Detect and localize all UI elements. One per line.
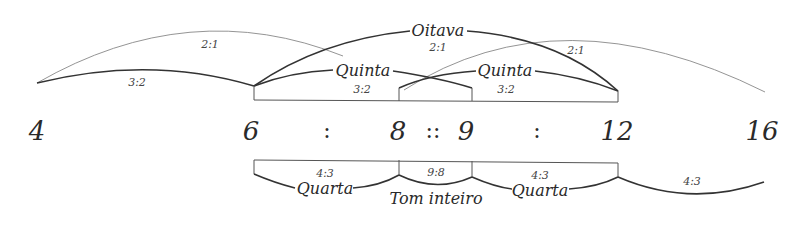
harmonic-ratio-diagram: Oitava 2:1 2:1 3:2 Quinta 3:2 Quinta 3:2… [0, 0, 800, 225]
number-9: 9 [458, 116, 475, 146]
arc-quarta-6-8-left [254, 174, 295, 188]
ratio-quinta-6-9: 3:2 [353, 83, 371, 96]
ratio-tom-inteiro: 9:8 [427, 166, 445, 179]
number-12: 12 [600, 116, 633, 146]
separator-colon-1: : [323, 118, 330, 143]
number-6: 6 [243, 116, 260, 146]
arc-quarta-6-8-right [353, 175, 399, 188]
separator-colon-2: : [533, 118, 540, 143]
number-4: 4 [28, 116, 46, 146]
ratio-oitava: 2:1 [428, 41, 447, 54]
label-quinta-6-9: Quinta [336, 61, 391, 80]
separator-double-colon: :: [426, 118, 441, 143]
arc-quarta-9-12-left [472, 177, 512, 189]
label-quarta-9-12: Quarta [512, 181, 569, 200]
ratio-quarta-12-16: 4:3 [682, 175, 701, 188]
label-quarta-6-8: Quarta [297, 179, 354, 198]
label-tom-inteiro: Tom inteiro [389, 189, 482, 208]
number-16: 16 [745, 116, 778, 146]
ratio-fifth-4-6: 3:2 [128, 76, 146, 89]
arc-octave-4-8 [37, 31, 343, 83]
label-oitava: Oitava [412, 21, 465, 40]
ratio-quinta-8-12: 3:2 [497, 83, 515, 96]
arc-quarta-9-12-right [569, 177, 618, 189]
number-8: 8 [390, 116, 407, 146]
ratio-octave-8-16: 2:1 [566, 44, 585, 57]
ratio-octave-4-8: 2:1 [200, 38, 219, 51]
upper-bracket [254, 86, 618, 102]
label-quinta-8-12: Quinta [478, 61, 533, 80]
